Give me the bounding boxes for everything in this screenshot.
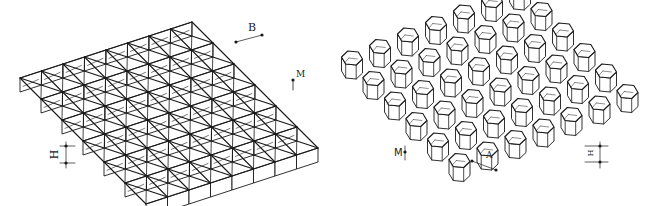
label-B: B: [248, 22, 256, 33]
label-M-right: M: [394, 148, 403, 158]
label-M-left: M: [296, 70, 305, 79]
label-H-right: H: [587, 150, 595, 157]
label-H-left: H: [49, 150, 60, 160]
label-A: A: [486, 151, 493, 160]
hexagonal-core-drawing: [0, 0, 656, 206]
diagram-stage: B M H M A H: [0, 0, 656, 206]
